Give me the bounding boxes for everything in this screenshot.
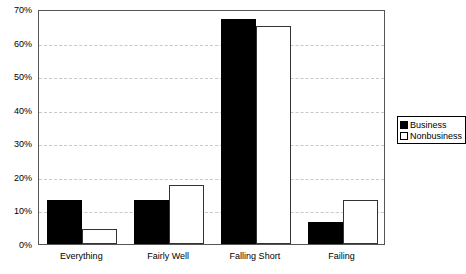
- legend-swatch-icon: [400, 132, 408, 140]
- y-tick-label: 60%: [14, 39, 32, 49]
- x-tick-label: Fairly Well: [147, 251, 189, 261]
- y-tick-label: 10%: [14, 206, 32, 216]
- bar-fairly-well-nonbusiness: [169, 185, 204, 244]
- y-tick-label: 30%: [14, 139, 32, 149]
- bar-falling-short-business: [221, 19, 256, 244]
- bar-falling-short-nonbusiness: [256, 26, 291, 244]
- bars-layer: [39, 11, 384, 244]
- y-axis: 0%10%20%30%40%50%60%70%: [0, 0, 36, 274]
- plot-area: [38, 10, 385, 245]
- x-axis: EverythingFairly WellFalling ShortFailin…: [38, 248, 385, 268]
- legend-label: Nonbusiness: [410, 131, 462, 141]
- bar-failing-nonbusiness: [343, 200, 378, 244]
- x-tick-label: Falling Short: [230, 251, 281, 261]
- y-tick-label: 20%: [14, 173, 32, 183]
- bar-fairly-well-business: [134, 200, 169, 244]
- y-tick-label: 40%: [14, 106, 32, 116]
- x-tick-label: Failing: [328, 251, 355, 261]
- legend-label: Business: [410, 120, 447, 130]
- y-tick-label: 70%: [14, 5, 32, 15]
- bar-everything-business: [47, 200, 82, 244]
- legend-item-nonbusiness: Nonbusiness: [400, 130, 462, 141]
- y-tick-label: 50%: [14, 72, 32, 82]
- legend-item-business: Business: [400, 119, 462, 130]
- y-tick-label: 0%: [19, 240, 32, 250]
- bar-everything-nonbusiness: [82, 229, 117, 244]
- legend-swatch-icon: [400, 121, 408, 129]
- bar-failing-business: [308, 222, 343, 244]
- chart-legend: BusinessNonbusiness: [397, 116, 466, 144]
- x-tick-label: Everything: [60, 251, 103, 261]
